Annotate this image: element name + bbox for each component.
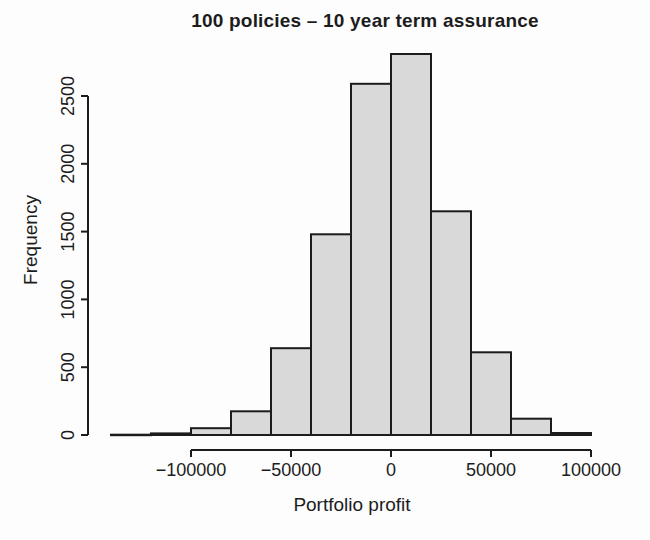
y-tick-label: 500	[58, 352, 78, 382]
histogram-bar	[231, 411, 271, 435]
histogram-bar	[471, 352, 511, 435]
x-tick-label: 100000	[561, 460, 621, 480]
x-tick-label: −50000	[261, 460, 322, 480]
y-tick-label: 2000	[58, 144, 78, 184]
y-tick-label: 2500	[58, 76, 78, 116]
histogram-bar	[151, 433, 191, 435]
histogram-bar	[351, 84, 391, 435]
histogram-figure: 100 policies – 10 year term assurance Fr…	[0, 0, 650, 540]
x-tick-label: −100000	[156, 460, 227, 480]
histogram-plot-area: 05001000150020002500−100000−500000500001…	[0, 0, 650, 540]
x-tick-label: 50000	[466, 460, 516, 480]
histogram-bar	[271, 348, 311, 435]
histogram-bar	[431, 211, 471, 435]
y-tick-label: 0	[58, 430, 78, 440]
x-tick-label: 0	[386, 460, 396, 480]
histogram-bar	[311, 234, 351, 435]
y-tick-label: 1000	[58, 279, 78, 319]
histogram-bar	[551, 433, 591, 435]
histogram-bar	[111, 435, 151, 436]
histogram-bar	[191, 428, 231, 435]
y-tick-label: 1500	[58, 212, 78, 252]
histogram-bar	[391, 54, 431, 435]
histogram-bar	[511, 419, 551, 435]
